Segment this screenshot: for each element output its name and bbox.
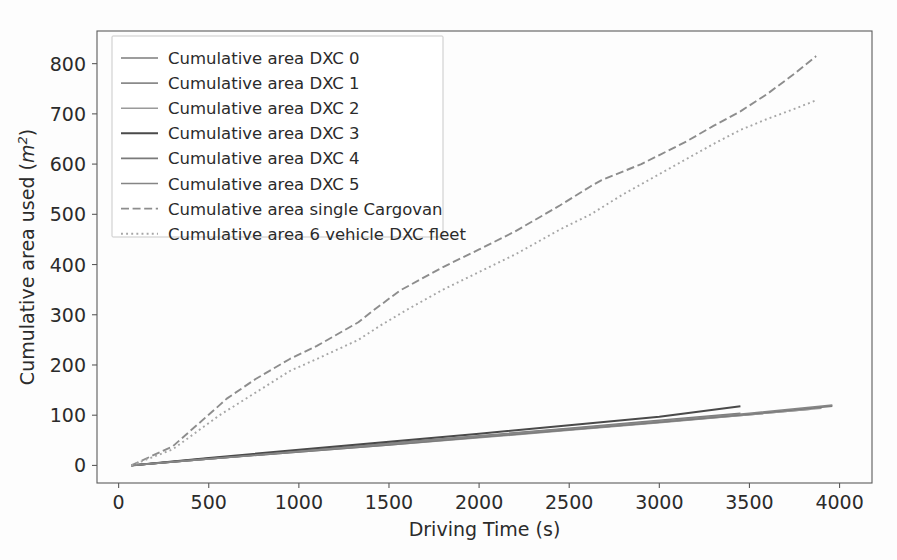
legend-label-3: Cumulative area DXC 3 <box>168 124 360 143</box>
x-tick-label: 500 <box>191 491 227 513</box>
x-tick-label: 3500 <box>725 491 773 513</box>
chart-figure: 0500100015002000250030003500400001002003… <box>0 0 897 560</box>
y-tick-label: 100 <box>50 404 86 426</box>
x-axis-label: Driving Time (s) <box>409 518 561 540</box>
x-tick-label: 3000 <box>635 491 683 513</box>
x-tick-label: 0 <box>113 491 125 513</box>
series-line-3 <box>131 406 740 465</box>
y-tick-label: 800 <box>50 53 86 75</box>
legend-label-0: Cumulative area DXC 0 <box>168 49 360 68</box>
legend-label-1: Cumulative area DXC 1 <box>168 74 360 93</box>
legend-label-7: Cumulative area 6 vehicle DXC fleet <box>168 225 466 244</box>
legend-label-5: Cumulative area DXC 5 <box>168 175 360 194</box>
legend-label-2: Cumulative area DXC 2 <box>168 99 360 118</box>
y-tick-label: 600 <box>50 153 86 175</box>
y-tick-label: 200 <box>50 354 86 376</box>
y-tick-label: 700 <box>50 103 86 125</box>
y-tick-label: 0 <box>74 454 86 476</box>
y-tick-label: 300 <box>50 304 86 326</box>
y-tick-label: 400 <box>50 254 86 276</box>
x-tick-label: 4000 <box>815 491 863 513</box>
legend-label-6: Cumulative area single Cargovan <box>168 200 443 219</box>
x-tick-label: 1000 <box>275 491 323 513</box>
x-tick-label: 2500 <box>545 491 593 513</box>
line-chart: 0500100015002000250030003500400001002003… <box>0 0 897 560</box>
y-tick-label: 500 <box>50 203 86 225</box>
legend-label-4: Cumulative area DXC 4 <box>168 149 360 168</box>
y-axis-label: Cumulative area used (m2) <box>15 129 39 385</box>
x-tick-label: 1500 <box>365 491 413 513</box>
x-tick-label: 2000 <box>455 491 503 513</box>
